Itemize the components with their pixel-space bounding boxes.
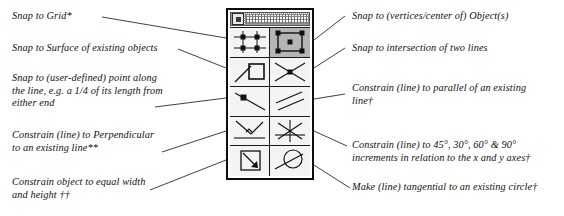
callout-snap-to-grid: Snap to Grid* bbox=[12, 10, 152, 23]
square-diagonal-icon bbox=[232, 148, 268, 174]
callout-constrain-angle: Constrain (line) to 45°, 30°, 60° & 90° … bbox=[352, 139, 562, 164]
tool-button-snap-to-intersection[interactable] bbox=[270, 58, 310, 88]
drag-grip[interactable] bbox=[245, 14, 309, 24]
parallel-lines-icon bbox=[272, 88, 308, 114]
leader-constrain-parallel bbox=[314, 94, 345, 99]
tool-button-constrain-equal-wh[interactable] bbox=[230, 146, 270, 176]
tool-button-snap-to-surface[interactable] bbox=[230, 58, 270, 88]
tool-button-snap-to-object[interactable] bbox=[270, 28, 310, 58]
tool-button-constrain-perpendicular[interactable] bbox=[230, 117, 270, 147]
callout-constrain-parallel: Constrain (line) to parallel of an exist… bbox=[352, 82, 562, 107]
tool-grid bbox=[230, 27, 310, 176]
line-to-square-icon bbox=[232, 59, 268, 85]
callout-snap-to-intersection: Snap to intersection of two lines bbox=[352, 42, 557, 55]
grid-dots-icon bbox=[232, 29, 268, 55]
leader-constrain-angle bbox=[314, 131, 347, 146]
tool-button-snap-to-point-on-line[interactable] bbox=[230, 87, 270, 117]
leader-snap-to-object bbox=[314, 16, 345, 40]
tool-button-snap-to-grid[interactable] bbox=[230, 28, 270, 58]
crossing-lines-icon bbox=[272, 59, 308, 85]
callout-snap-to-object: Snap to (vertices/center of) Object(s) bbox=[352, 10, 557, 23]
callout-snap-to-surface: Snap to Surface of existing objects bbox=[12, 42, 192, 55]
palette-titlebar[interactable] bbox=[230, 12, 310, 26]
tool-button-constrain-angle[interactable] bbox=[270, 117, 310, 147]
leader-snap-to-intersection bbox=[314, 48, 345, 68]
palette-inner bbox=[230, 12, 310, 176]
callout-constrain-perpendicular: Constrain (line) to Perpendicular to an … bbox=[12, 129, 177, 154]
tool-button-constrain-parallel[interactable] bbox=[270, 87, 310, 117]
point-on-line-icon bbox=[232, 88, 268, 114]
object-vertices-icon bbox=[272, 29, 308, 55]
figure-root: Snap to Grid* Snap to Surface of existin… bbox=[0, 0, 564, 216]
circle-tangent-icon bbox=[272, 148, 308, 174]
window-box-icon[interactable] bbox=[232, 13, 244, 25]
tool-button-constrain-tangent[interactable] bbox=[270, 146, 310, 176]
perpendicular-icon bbox=[232, 118, 268, 144]
callout-snap-to-point-on-line: Snap to (user-defined) point along the l… bbox=[12, 72, 182, 110]
snap-constrain-palette[interactable] bbox=[226, 8, 314, 180]
callout-constrain-tangent: Make (line) tangential to an existing ci… bbox=[352, 181, 564, 194]
callout-constrain-equal-wh: Constrain object to equal width and heig… bbox=[12, 176, 177, 201]
angle-increments-icon bbox=[272, 118, 308, 144]
leader-constrain-tangent bbox=[314, 165, 350, 188]
